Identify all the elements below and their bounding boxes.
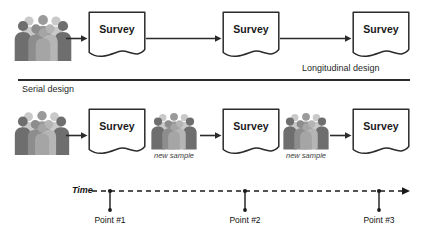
timeline-axis-label: Time: [72, 186, 93, 195]
timeline-point-3-label: Point #3: [351, 216, 407, 225]
survey-label: Survey: [88, 121, 146, 132]
caption-longitudinal-design: Longitudinal design: [302, 64, 380, 73]
survey-document-longitudinal-2: Survey: [222, 11, 280, 59]
arrow-survey-1-to-survey-2: [146, 34, 222, 43]
survey-document-serial-3: Survey: [352, 108, 410, 156]
timeline-point-1-label: Point #1: [82, 216, 138, 225]
survey-document-longitudinal-1: Survey: [88, 11, 146, 59]
survey-document-longitudinal-3: Survey: [352, 11, 410, 59]
arrow-people-to-survey-1: [66, 34, 88, 43]
survey-label: Survey: [352, 24, 410, 35]
figure-canvas: Survey Survey Survey Longitudinal design…: [0, 0, 422, 234]
arrow-sample-2-to-survey: [200, 131, 222, 140]
timeline-axis: [0, 178, 422, 234]
arrow-sample-1-to-survey: [66, 131, 88, 140]
survey-document-serial-2: Survey: [222, 108, 280, 156]
arrow-survey-2-to-survey-3: [280, 34, 352, 43]
people-group-serial-sample-1: [16, 110, 68, 158]
caption-serial-design: Serial design: [22, 85, 74, 94]
people-group-longitudinal-baseline: [16, 14, 70, 64]
new-sample-label-2: new sample: [150, 152, 198, 160]
survey-label: Survey: [222, 121, 280, 132]
people-group-serial-sample-3: [284, 112, 328, 152]
arrow-sample-3-to-survey: [330, 131, 352, 140]
survey-label: Survey: [88, 24, 146, 35]
survey-label: Survey: [352, 121, 410, 132]
people-group-serial-sample-2: [152, 112, 196, 152]
new-sample-label-3: new sample: [282, 152, 330, 160]
timeline-point-2-label: Point #2: [217, 216, 273, 225]
survey-document-serial-1: Survey: [88, 108, 146, 156]
divider-between-designs: [18, 79, 410, 81]
survey-label: Survey: [222, 24, 280, 35]
